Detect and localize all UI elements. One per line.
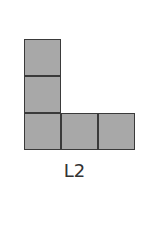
figure-label: L2 <box>0 161 149 181</box>
grid-cell <box>98 113 135 150</box>
grid-cell <box>24 113 61 150</box>
grid-cell <box>24 76 61 113</box>
grid-cell <box>24 39 61 76</box>
grid-cell <box>61 113 98 150</box>
